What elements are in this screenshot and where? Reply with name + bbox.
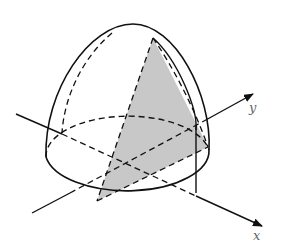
y-axis-label: y	[249, 101, 256, 114]
x-axis-front	[196, 196, 262, 226]
x-axis-back	[16, 114, 62, 134]
x-axis-label: x	[253, 229, 260, 242]
y-axis-back	[204, 94, 253, 121]
diagram-canvas	[0, 0, 281, 243]
y-axis-front	[32, 193, 70, 213]
